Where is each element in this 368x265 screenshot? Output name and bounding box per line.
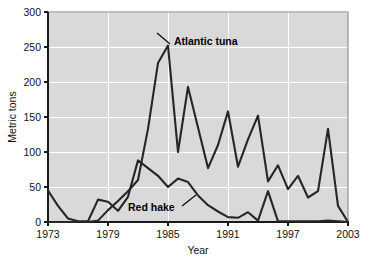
x-tick-label-2003: 2003 bbox=[336, 228, 360, 240]
x-tick-label-1991: 1991 bbox=[216, 228, 240, 240]
annotation-label-atlantic-tuna: Atlantic tuna bbox=[174, 35, 238, 47]
x-tick-label-1973: 1973 bbox=[36, 228, 60, 240]
y-tick-label-300: 300 bbox=[23, 6, 41, 18]
y-tick-label-50: 50 bbox=[29, 181, 41, 193]
line-chart-figure: 050100150200250300 197319791985199119972… bbox=[0, 0, 368, 265]
x-tick-label-1985: 1985 bbox=[156, 228, 180, 240]
x-axis-title: Year bbox=[187, 244, 209, 256]
y-tick-label-250: 250 bbox=[23, 41, 41, 53]
chart-container: 050100150200250300 197319791985199119972… bbox=[0, 0, 368, 265]
y-tick-label-150: 150 bbox=[23, 111, 41, 123]
x-tick-label-1997: 1997 bbox=[276, 228, 300, 240]
y-tick-label-200: 200 bbox=[23, 76, 41, 88]
y-axis-title: Metric tons bbox=[6, 91, 18, 142]
y-tick-label-0: 0 bbox=[35, 216, 41, 228]
y-tick-label-100: 100 bbox=[23, 146, 41, 158]
annotation-label-red-hake: Red hake bbox=[128, 201, 175, 213]
x-tick-label-1979: 1979 bbox=[96, 228, 120, 240]
